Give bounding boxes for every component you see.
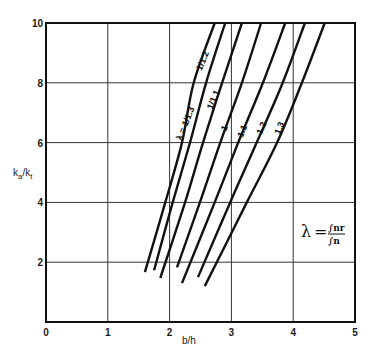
x-tick-label: 1 xyxy=(105,327,111,338)
x-tick-label: 5 xyxy=(352,327,358,338)
x-tick-label: 4 xyxy=(290,327,296,338)
formula-denominator: ∫n xyxy=(328,236,340,246)
x-tick-label: 2 xyxy=(167,327,173,338)
y-tick-label: 8 xyxy=(37,78,43,89)
equals-sign: = xyxy=(314,222,327,241)
y-tick-label: 2 xyxy=(37,257,43,268)
lambda-formula: λ = ∫nr ∫n xyxy=(301,222,345,246)
y-axis-ticks: 246810 xyxy=(32,18,44,268)
chart: λ = 1/1.31/1.21/1.111.11.21.3 012345 246… xyxy=(0,0,372,356)
curve-label: 1.1 xyxy=(235,123,249,138)
curve-label: 1/1.2 xyxy=(194,50,211,72)
x-axis-label: b/h xyxy=(182,335,196,346)
x-tick-label: 3 xyxy=(229,327,235,338)
x-axis-ticks: 012345 xyxy=(43,327,358,338)
curves xyxy=(145,23,325,286)
y-tick-label: 4 xyxy=(37,197,43,208)
y-tick-label: 10 xyxy=(32,18,44,29)
y-tick-label: 6 xyxy=(37,138,43,149)
curve-label: 1/1.1 xyxy=(205,88,222,110)
y-axis-label: ka/kt xyxy=(13,167,33,181)
curve-label: 1 xyxy=(219,124,230,132)
y-label-sub-t: t xyxy=(30,172,33,181)
curve-label: λ = 1/1.3 xyxy=(174,105,196,141)
curve-1.3 xyxy=(205,23,325,286)
formula-numerator: ∫nr xyxy=(328,223,345,233)
curve-label: 1.3 xyxy=(272,120,286,135)
x-tick-label: 0 xyxy=(43,327,49,338)
lambda-symbol: λ xyxy=(301,222,311,241)
